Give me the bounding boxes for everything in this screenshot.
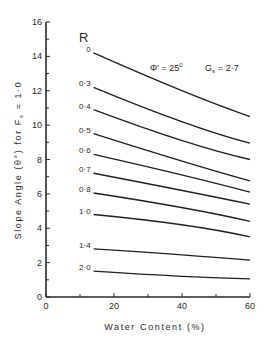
- curve-R-2·0: [94, 271, 250, 279]
- curve-label: 0: [86, 45, 91, 54]
- curve-R-0·4: [94, 110, 250, 160]
- x-tick-label: 0: [43, 301, 48, 311]
- y-tick-label: 8: [37, 155, 42, 165]
- y-tick-label: 2: [37, 258, 42, 268]
- curve-label: 0·8: [79, 185, 91, 194]
- x-tick-label: 20: [109, 301, 119, 311]
- curve-R-1·0: [94, 215, 250, 237]
- curve-R-1·4: [94, 249, 250, 260]
- legend-title: R: [79, 30, 88, 45]
- y-tick-label: 14: [32, 51, 42, 61]
- y-tick-label: 16: [32, 17, 42, 27]
- curve-label: 0·4: [79, 102, 91, 111]
- curve-labels: 00·30·40·50·60·70·81·01·42·0: [79, 45, 91, 272]
- curve-R-0·7: [94, 173, 250, 204]
- curves: [94, 53, 250, 279]
- phi-annotation: Φ' = 250: [150, 62, 183, 73]
- axes: 02468101214160204060: [32, 17, 255, 311]
- y-tick-label: 6: [37, 189, 42, 199]
- x-axis-title: Water Content (%): [104, 322, 205, 332]
- y-tick-label: 10: [32, 120, 42, 130]
- curve-label: 1·0: [79, 207, 91, 216]
- curve-label: 0·3: [79, 79, 91, 88]
- x-tick-label: 60: [245, 301, 255, 311]
- curve-label: 0·7: [79, 165, 91, 174]
- y-axis-title: Slope Angle (θ°) for Fs = 1·0: [13, 81, 24, 240]
- curve-R-0·5: [94, 134, 250, 181]
- curve-label: 2·0: [79, 263, 91, 272]
- curve-label: 1·4: [79, 241, 91, 250]
- y-tick-label: 4: [37, 223, 42, 233]
- x-tick-label: 40: [177, 301, 187, 311]
- gs-annotation: Gs= 2·7: [205, 63, 239, 74]
- curve-label: 0·6: [79, 146, 91, 155]
- y-tick-label: 0: [37, 292, 42, 302]
- curve-R-0·6: [94, 154, 250, 192]
- y-tick-label: 12: [32, 86, 42, 96]
- slope-angle-chart: 02468101214160204060 00·30·40·50·60·70·8…: [0, 0, 266, 349]
- curve-R-0·3: [94, 87, 250, 143]
- curve-label: 0·5: [79, 126, 91, 135]
